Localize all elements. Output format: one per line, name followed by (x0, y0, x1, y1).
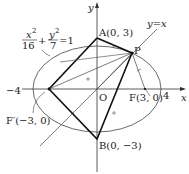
y-axis-label: y (87, 2, 94, 13)
fprime-leader (33, 92, 45, 113)
eq-y-den: 7 (50, 40, 56, 51)
eq-y-exp: 2 (55, 27, 59, 35)
origin-label: O (99, 92, 107, 103)
point-F (144, 88, 146, 90)
eq-y-num: y (48, 29, 55, 40)
equation-leader (42, 50, 50, 56)
tick-pos4: 4 (163, 90, 169, 101)
segment-PF (132, 53, 145, 89)
line-label: y=x (146, 18, 167, 29)
y-axis-arrow (95, 2, 99, 8)
x-axis-label: x (181, 92, 187, 103)
label-A: A(0, 3) (98, 27, 133, 38)
eq-plus: + (38, 35, 46, 46)
x-axis-arrow (180, 87, 186, 91)
tick-neg4: −4 (6, 85, 21, 96)
label-F: F(3, 0) (129, 92, 163, 103)
eq-x-den: 16 (22, 40, 35, 51)
eq-x-exp: 2 (32, 27, 36, 35)
segment-PO (97, 53, 132, 89)
label-B: B(0, −3) (99, 140, 142, 151)
midpoint-mark (113, 112, 115, 114)
eq-equals: =1 (59, 35, 74, 46)
ellipse-diagram: x 2 16 + y 2 7 =1 y x O y=x A(0, 3) P B(… (0, 0, 189, 174)
label-Fprime: F′(−3, 0) (6, 115, 51, 126)
label-P: P (134, 45, 141, 56)
point-Fprime (48, 88, 51, 91)
midpoint-mark (87, 78, 89, 80)
